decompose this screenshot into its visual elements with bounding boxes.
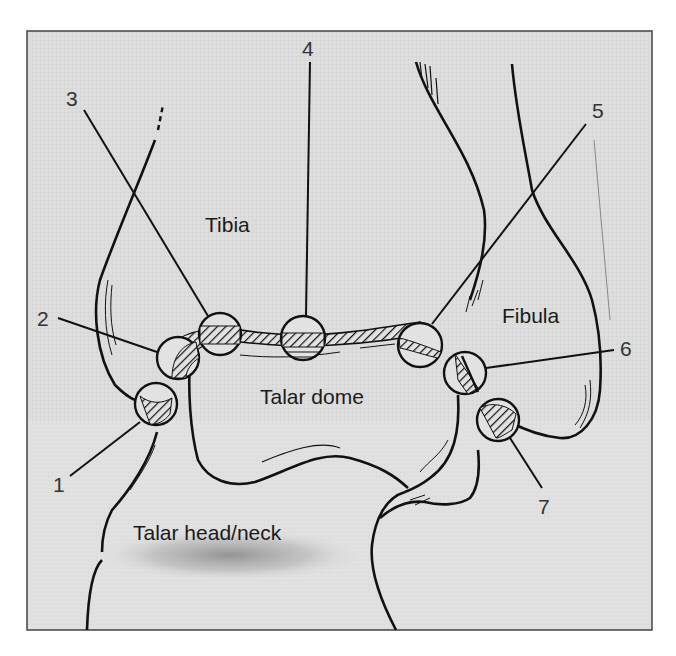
zone-4-circle	[281, 316, 325, 360]
zone-1-circle	[135, 383, 177, 425]
zone-6-circle	[444, 352, 486, 394]
callout-7: 7	[538, 496, 550, 517]
zone-3-circle	[199, 313, 241, 355]
label-tibia: Tibia	[205, 214, 250, 235]
label-fibula: Fibula	[502, 305, 559, 326]
callout-4: 4	[302, 38, 314, 59]
ankle-diagram: Tibia Fibula Talar dome Talar head/neck …	[0, 0, 676, 656]
diagram-drawing	[0, 0, 676, 656]
zone-7-circle	[477, 399, 519, 441]
callout-1: 1	[53, 474, 65, 495]
callout-2: 2	[37, 308, 49, 329]
zone-2-circle	[157, 337, 199, 379]
callout-6: 6	[620, 338, 632, 359]
callout-3: 3	[66, 88, 78, 109]
callout-5: 5	[592, 100, 604, 121]
label-talar-head-neck: Talar head/neck	[133, 522, 281, 543]
label-talar-dome: Talar dome	[260, 386, 364, 407]
zone-5-circle	[398, 323, 442, 367]
